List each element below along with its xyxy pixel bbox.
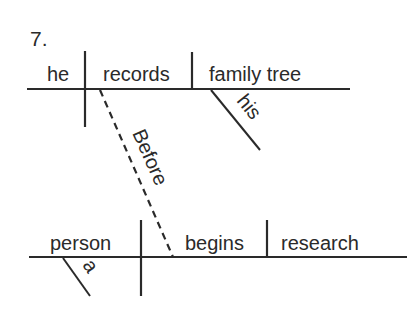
subject-modifier-word: a bbox=[79, 255, 104, 277]
object-modifier-word: his bbox=[233, 90, 266, 124]
subordinate-object-word: research bbox=[281, 232, 359, 254]
sentence-diagram: 7. he records family tree his Before per… bbox=[0, 0, 420, 320]
subordinate-subject-word: person bbox=[50, 232, 111, 254]
subordinate-verb-word: begins bbox=[185, 232, 244, 254]
connector-word: Before bbox=[128, 126, 172, 189]
main-subject-word: he bbox=[47, 63, 69, 85]
main-verb-word: records bbox=[103, 63, 170, 85]
exercise-number: 7. bbox=[30, 27, 48, 50]
main-object-word: family tree bbox=[209, 63, 301, 85]
